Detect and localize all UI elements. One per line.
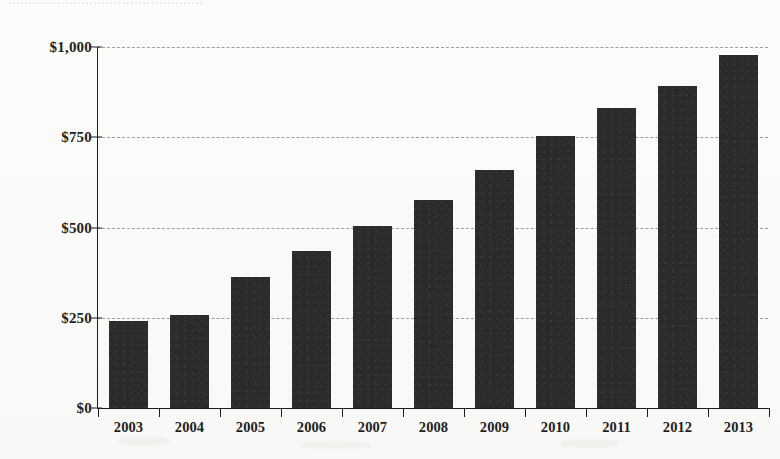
scan-smudge [300,441,370,449]
x-tick-1 [159,408,160,417]
x-axis-label-2011: 2011 [602,419,631,436]
x-axis-label-2013: 2013 [724,419,753,436]
bar-2005 [231,277,269,408]
x-tick-8 [586,408,587,417]
bar-2011 [597,108,635,408]
bar-chart: $0$250$500$750$1,000 2003200420052006200… [0,0,780,459]
bar-2008 [414,200,452,408]
bar-2004 [170,315,208,408]
x-axis-label-2004: 2004 [175,419,204,436]
bar-2010 [536,136,574,408]
y-axis-label-1000: $1,000 [50,39,92,56]
x-tick-10 [708,408,709,417]
bar-2003 [109,321,147,408]
x-axis-line [97,408,769,409]
x-axis-label-2006: 2006 [297,419,326,436]
x-axis-label-2009: 2009 [480,419,509,436]
y-axis-label-0: $0 [77,400,92,417]
x-axis-label-2005: 2005 [236,419,265,436]
x-tick-3 [281,408,282,417]
x-tick-2 [220,408,221,417]
x-tick-4 [342,408,343,417]
x-tick-end [769,408,770,417]
plot-area [98,47,769,408]
x-tick-5 [403,408,404,417]
x-axis-label-2008: 2008 [419,419,448,436]
x-axis-label-2010: 2010 [541,419,570,436]
bar-2009 [475,170,513,408]
x-axis-label-2012: 2012 [663,419,692,436]
y-axis-label-250: $250 [61,309,92,326]
x-axis-label-2007: 2007 [358,419,387,436]
x-axis-label-2003: 2003 [114,419,143,436]
y-axis-label-750: $750 [61,129,92,146]
bar-2012 [658,86,696,408]
bar-2006 [292,251,330,408]
x-tick-7 [525,408,526,417]
y-axis-label-500: $500 [61,219,92,236]
x-tick-6 [464,408,465,417]
x-tick-0 [98,408,99,417]
x-tick-9 [647,408,648,417]
scan-smudge [118,437,170,446]
scan-smudge [560,439,620,448]
bar-2007 [353,226,391,408]
bar-2013 [719,55,757,408]
